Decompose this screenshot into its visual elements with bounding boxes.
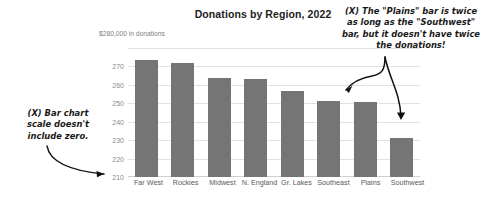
y-tick-label-270: 270 <box>112 63 124 70</box>
annotation-plains-line-2: as long as the "Southwest" <box>330 17 492 28</box>
y-tick-label-260: 260 <box>112 81 124 88</box>
annotation-scale-line-1: (X) Bar chart <box>6 108 110 119</box>
bar-series <box>128 35 420 177</box>
arrow-to-axis-minimum <box>47 146 104 174</box>
bar-southwest <box>390 138 413 177</box>
bar-southeast <box>317 101 340 177</box>
y-tick-label-230: 230 <box>112 137 124 144</box>
annotation-plains-line-1: (X) The "Plains" bar is twice <box>330 6 492 17</box>
chart-figure: Donations by Region, 2022 $280,000 in do… <box>0 0 494 198</box>
x-tick-label-far-west: Far West <box>134 178 163 187</box>
x-tick-label-rockies: Rockies <box>173 178 199 187</box>
annotation-scale-line-2: scale doesn't <box>6 119 110 130</box>
bar-midwest <box>208 78 231 178</box>
plot-area: 270 260 250 240 230 220 210 Far West Roc… <box>128 35 420 177</box>
bar-plains <box>354 102 377 177</box>
bar-far-west <box>135 60 158 177</box>
annotation-plains-southwest-note: (X) The "Plains" bar is twice as long as… <box>330 6 492 52</box>
y-tick-label-240: 240 <box>112 118 124 125</box>
y-tick-label-210: 210 <box>112 174 124 181</box>
annotation-scale-line-3: include zero. <box>6 131 110 142</box>
y-tick-label-220: 220 <box>112 155 124 162</box>
x-tick-label-gr-lakes: Gr. Lakes <box>281 178 312 187</box>
x-tick-label-plains: Plains <box>361 178 381 187</box>
annotation-scale-note: (X) Bar chart scale doesn't include zero… <box>6 108 110 142</box>
x-tick-label-n-england: N. England <box>242 178 278 187</box>
y-tick-label-250: 250 <box>112 100 124 107</box>
annotation-plains-line-4: the donations! <box>330 40 492 51</box>
arrow-to-axis-minimum-head <box>97 171 105 177</box>
x-tick-label-midwest: Midwest <box>209 178 235 187</box>
annotation-plains-line-3: bar, but it doesn't have twice <box>330 29 492 40</box>
x-tick-label-southeast: Southeast <box>317 178 349 187</box>
bar-rockies <box>171 63 194 177</box>
bar-n-england <box>244 79 267 177</box>
x-tick-label-southwest: Southwest <box>391 178 425 187</box>
bar-gr-lakes <box>281 91 304 177</box>
